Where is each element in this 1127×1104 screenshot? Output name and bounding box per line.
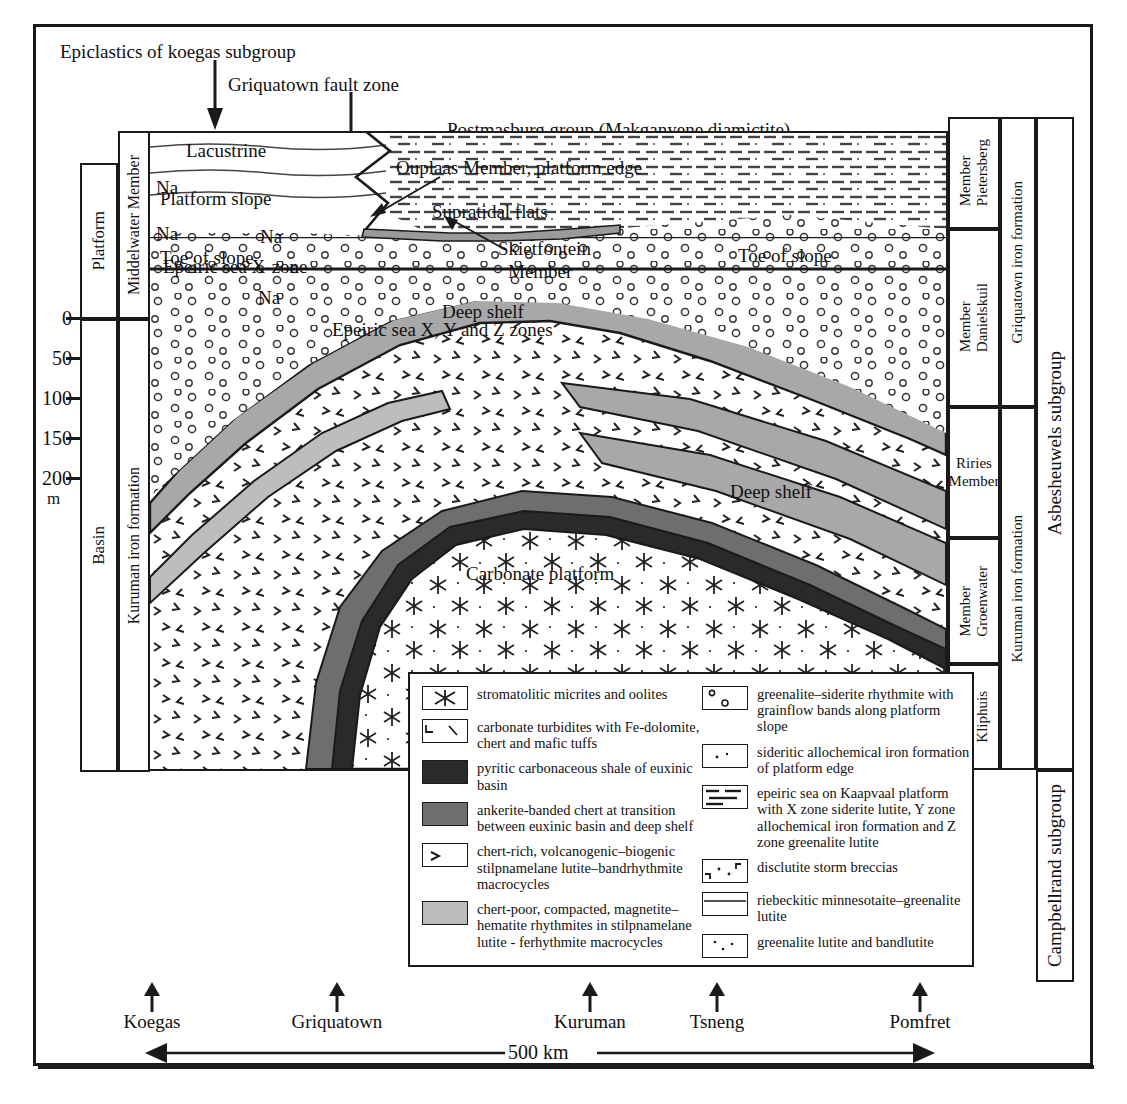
- label-toe-of-slope-right: Toe of slope: [738, 245, 832, 267]
- locality-arrow-griquatown: [325, 982, 349, 1012]
- epiclastics-arrow: [200, 60, 230, 132]
- depth-tick-50: 50: [16, 347, 72, 370]
- figure-root: Epiclastics of koegas subgroup Griquatow…: [0, 0, 1127, 1104]
- left-column-middelwater-member: Middelwater Member: [118, 131, 150, 319]
- legend-item: sideritic allochemical iron formation of…: [702, 744, 970, 776]
- right-member-kliphuis-line1: Kliphuis: [975, 691, 991, 743]
- scale-bar-label: 500 km: [508, 1041, 569, 1064]
- depth-tick-200: 200: [16, 467, 72, 490]
- right-member-danielskuil-line2: Member: [958, 283, 974, 352]
- left-column-middelwater-label: Middelwater Member: [125, 155, 143, 295]
- locality-arrow-tsneng: [705, 982, 729, 1012]
- legend-item: pyritic carbonaceous shale of euxinic ba…: [422, 760, 700, 792]
- label-skietfontein-member-line2: Member: [508, 261, 572, 283]
- legend-item: chert-poor, compacted, magnetite–hematit…: [422, 901, 700, 950]
- right-subgroup-asbesheuwels-label: Asbesheuwels subgroup: [1045, 351, 1065, 535]
- left-column-platform-label: Platform: [89, 211, 109, 271]
- skietfontein-leader-line: [438, 214, 510, 254]
- legend-box: stromatolitic micrites and oolites carbo…: [408, 672, 974, 967]
- chert-poor-swatch: [422, 901, 468, 925]
- disclutite-swatch: [702, 859, 748, 883]
- label-epeiric-sea-x-zone: Epeiric sea X-zone: [163, 256, 308, 278]
- right-member-riries-line1: Riries: [949, 455, 1000, 472]
- depth-tick-0: 0: [16, 307, 72, 330]
- right-formation-kuruman-label: Kuruman iron formation: [1010, 515, 1026, 662]
- epeiric-sea-swatch: [702, 785, 748, 809]
- right-subgroup-asbesheuwels: Asbesheuwels subgroup: [1036, 117, 1074, 770]
- na-label-4: Na: [258, 287, 280, 309]
- legend-label: pyritic carbonaceous shale of euxinic ba…: [477, 760, 700, 792]
- legend-item: chert-rich, volcanogenic–biogenic stilpn…: [422, 843, 700, 892]
- carbonate-turbidite-swatch: [422, 719, 468, 743]
- legend-item: stromatolitic micrites and oolites: [422, 686, 700, 710]
- locality-label-kuruman: Kuruman: [534, 1011, 646, 1033]
- legend-item: disclutite storm breccias: [702, 859, 970, 883]
- legend-label: greenalite lutite and bandlutite: [757, 934, 934, 950]
- right-subgroup-campbellrand-label: Campbellrand subgroup: [1045, 784, 1065, 967]
- right-member-pietersberg: Pietersberg Member: [948, 117, 1000, 229]
- ankerite-chert-swatch: [422, 802, 468, 826]
- tick-mark-100: [66, 397, 80, 400]
- legend-item: epeiric sea on Kaapvaal platform with X …: [702, 785, 970, 850]
- legend-label: chert-rich, volcanogenic–biogenic stilpn…: [477, 843, 700, 892]
- legend-item: greenalite lutite and bandlutite: [702, 934, 970, 958]
- depth-tick-150: 150: [16, 427, 72, 450]
- right-member-pietersberg-line1: Pietersberg: [975, 139, 991, 206]
- right-formation-griquatown: Griquatown iron formation: [1000, 117, 1036, 407]
- tick-mark-200: [66, 477, 80, 480]
- depth-unit: m: [47, 489, 60, 509]
- locality-label-tsneng: Tsneng: [667, 1011, 767, 1033]
- depth-tick-100: 100: [16, 387, 72, 410]
- legend-label: sideritic allochemical iron formation of…: [757, 744, 970, 776]
- sideritic-allochem-swatch: [702, 744, 748, 768]
- tick-mark-0: [66, 317, 80, 320]
- right-member-groenwater: Groenwater Member: [948, 538, 1000, 664]
- right-subgroup-campbellrand: Campbellrand subgroup: [1036, 770, 1074, 982]
- locality-label-pomfret: Pomfret: [870, 1011, 970, 1033]
- legend-label: disclutite storm breccias: [757, 859, 898, 875]
- label-deep-shelf-lower: Deep shelf: [730, 481, 812, 503]
- label-epeiric-sea-xyz: Epeiric sea X, Y and Z zones: [332, 319, 553, 341]
- right-member-groenwater-line1: Groenwater: [975, 566, 991, 637]
- greenalite-lutite-swatch: [702, 934, 748, 958]
- right-member-danielskuil-line1: Danielskuil: [975, 283, 991, 352]
- right-formation-kuruman: Kuruman iron formation: [1000, 407, 1036, 770]
- right-member-danielskuil: Danielskuil Member: [948, 229, 1000, 407]
- legend-item: greenalite–siderite rhythmite with grain…: [702, 686, 970, 735]
- stromatolite-swatch: [422, 686, 468, 710]
- label-carbonate-platform: Carbonate platform: [466, 563, 614, 585]
- locality-label-griquatown: Griquatown: [277, 1011, 397, 1033]
- left-column-basin-label: Basin: [89, 526, 109, 565]
- right-member-groenwater-line2: Member: [958, 566, 974, 637]
- legend-label: epeiric sea on Kaapvaal platform with X …: [757, 785, 970, 850]
- greenalite-siderite-swatch: [702, 686, 748, 710]
- locality-label-koegas: Koegas: [102, 1011, 202, 1033]
- left-column-kuruman-label: Kuruman iron formation: [125, 467, 143, 624]
- legend-label: greenalite–siderite rhythmite with grain…: [757, 686, 970, 735]
- label-lacustrine: Lacustrine: [186, 140, 266, 162]
- right-member-riries-line2: Member: [949, 473, 1000, 490]
- right-member-riries: Riries Member: [948, 407, 1000, 538]
- right-formation-griquatown-label: Griquatown iron formation: [1010, 181, 1026, 343]
- chert-rich-swatch: [422, 843, 468, 867]
- label-skietfontein-member-line1: Skietfontein: [498, 238, 591, 260]
- left-column-kuruman-iron-formation: Kuruman iron formation: [118, 319, 150, 772]
- legend-label: ankerite-banded chert at transition betw…: [477, 802, 700, 834]
- locality-arrow-kuruman: [578, 982, 602, 1012]
- legend-item: carbonate turbidites with Fe-dolomite, c…: [422, 719, 700, 751]
- right-member-pietersberg-line2: Member: [958, 139, 974, 206]
- tick-mark-150: [66, 437, 80, 440]
- locality-arrow-pomfret: [908, 982, 932, 1012]
- legend-label: chert-poor, compacted, magnetite–hematit…: [477, 901, 700, 950]
- left-column-platform: Platform: [80, 163, 118, 319]
- na-label-2: Na: [156, 223, 178, 245]
- annotation-epiclastics: Epiclastics of koegas subgroup: [60, 41, 296, 63]
- riebeckitic-swatch: [702, 892, 748, 916]
- locality-arrow-koegas: [140, 982, 164, 1012]
- na-label-1: Na: [156, 177, 178, 199]
- left-column-basin: Basin: [80, 319, 118, 772]
- legend-column-right: greenalite–siderite rhythmite with grain…: [702, 686, 970, 967]
- tick-mark-50: [66, 357, 80, 360]
- legend-item: ankerite-banded chert at transition betw…: [422, 802, 700, 834]
- legend-column-left: stromatolitic micrites and oolites carbo…: [422, 686, 700, 959]
